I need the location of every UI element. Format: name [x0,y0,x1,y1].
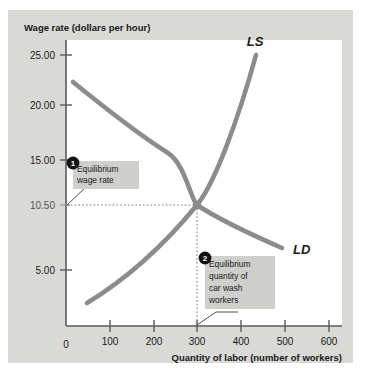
equilibrium-point-marker [193,201,201,209]
annotation-2-line1: Equilibrium [209,259,250,269]
y-tick-label-10-50: 10.50 [30,200,55,211]
chart-plot-area: 25.00 20.00 15.00 10.50 5.00 Wage rate (… [0,0,366,374]
x-tick-label-200: 200 [146,336,163,347]
annotation-2-line2: quantity of [209,271,248,281]
annotation-2-badge-number: 2 [203,254,208,263]
curve-label-ls: LS [247,34,264,49]
x-axis-title: Quantity of labor (number of workers) [172,352,343,363]
x-tick-label-0: 0 [63,339,69,350]
y-tick-label-20: 20.00 [30,100,55,111]
chart-svg: 25.00 20.00 15.00 10.50 5.00 Wage rate (… [0,0,366,374]
x-tick-label-600: 600 [321,336,338,347]
x-tick-label-400: 400 [233,336,250,347]
annotation-1-badge-number: 1 [71,159,76,168]
annotation-1-line2: wage rate [76,175,114,185]
y-tick-label-25: 25.00 [30,50,55,61]
y-axis-title: Wage rate (dollars per hour) [24,22,150,33]
y-tick-label-15: 15.00 [30,155,55,166]
annotation-2-line3: car wash [209,283,243,293]
x-tick-label-100: 100 [102,336,119,347]
x-tick-label-300: 300 [189,336,206,347]
annotation-1-line1: Equilibrium [77,164,118,174]
curve-label-ld: LD [293,242,311,257]
figure-root: 25.00 20.00 15.00 10.50 5.00 Wage rate (… [0,0,366,374]
y-tick-label-5: 5.00 [36,265,56,276]
x-tick-label-500: 500 [277,336,294,347]
annotation-2-line4: workers [208,295,238,305]
